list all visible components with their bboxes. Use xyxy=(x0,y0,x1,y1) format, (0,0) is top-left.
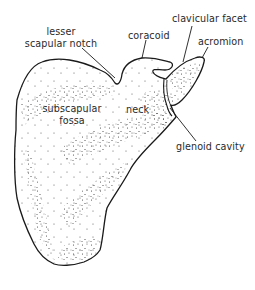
leader-coracoid xyxy=(142,40,146,58)
label-neck: neck xyxy=(126,104,149,115)
label-glenoid-cavity: glenoid cavity xyxy=(176,141,245,152)
label-clavicular-facet: clavicular facet xyxy=(172,13,247,24)
label-subscapular-line1: subscapular xyxy=(36,103,108,114)
label-acromion: acromion xyxy=(198,36,244,47)
label-coracoid: coracoid xyxy=(128,30,170,41)
label-subscapular-fossa: fossa xyxy=(36,115,108,126)
label-lesser-scapular-notch: scapular notch xyxy=(16,38,106,49)
leader-clavicular-facet xyxy=(183,26,192,62)
leader-acromion xyxy=(202,47,208,58)
leader-glenoid-cavity xyxy=(170,108,196,141)
label-lesser-line1: lesser xyxy=(26,26,96,37)
